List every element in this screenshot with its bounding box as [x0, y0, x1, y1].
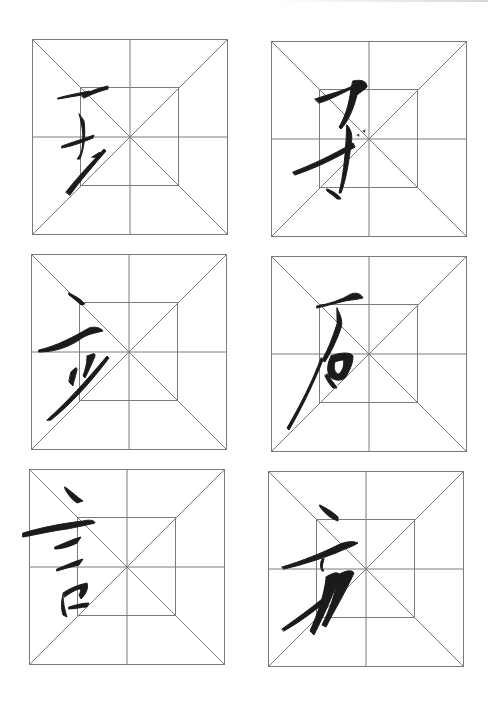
brush-strokes — [293, 80, 367, 199]
practice-cell-4: 石 — [271, 256, 467, 452]
practice-cell-1: 去 — [32, 39, 228, 235]
mi-grid — [32, 39, 228, 235]
mi-grid — [29, 469, 225, 665]
brush-strokes — [282, 505, 358, 635]
mi-grid — [271, 256, 467, 452]
brush-strokes — [287, 293, 363, 430]
brush-strokes — [58, 86, 108, 195]
practice-cell-2: 子 — [271, 41, 467, 237]
practice-cell-6: 方 — [268, 471, 464, 667]
scan-edge-band — [270, 0, 488, 2]
mi-grid — [31, 254, 227, 450]
mi-grid — [271, 41, 467, 237]
practice-cell-5: 言 — [29, 469, 225, 665]
mi-grid — [268, 471, 464, 667]
practice-cell-3: 立 — [31, 254, 227, 450]
brush-strokes — [23, 487, 95, 617]
